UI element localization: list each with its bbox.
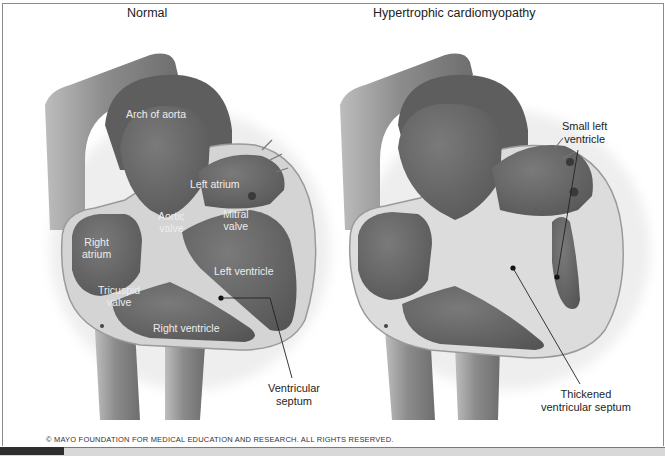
copyright-notice: © MAYO FOUNDATION FOR MEDICAL EDUCATION … xyxy=(46,435,394,444)
label-aortic-valve: Aortic valve xyxy=(158,210,185,234)
callout-thickened-septum: Thickened ventricular septum xyxy=(541,388,631,414)
label-mitral-valve: Mitral valve xyxy=(223,208,249,232)
label-right-ventricle: Right ventricle xyxy=(153,322,220,334)
footer-bar xyxy=(0,447,665,456)
label-arch-of-aorta: Arch of aorta xyxy=(126,108,186,120)
label-left-ventricle: Left ventricle xyxy=(214,265,274,277)
label-left-atrium: Left atrium xyxy=(190,178,240,190)
callout-small-left-ventricle: Small left ventricle xyxy=(562,120,607,146)
callout-ventricular-septum: Ventricular septum xyxy=(268,382,320,408)
hcm-heart xyxy=(340,54,650,420)
label-right-atrium: Right atrium xyxy=(82,236,111,260)
footer-bar-dark-segment xyxy=(0,447,64,455)
label-tricuspid-valve: Tricuspid valve xyxy=(98,284,140,308)
